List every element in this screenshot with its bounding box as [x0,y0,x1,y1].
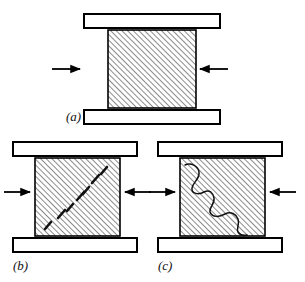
panel-label-b: (b) [13,258,28,273]
figure-canvas: (a) (b) (c) [0,0,305,282]
bottom-platen-c [158,238,282,252]
panel-label-a: (a) [66,109,81,124]
top-platen-c [158,142,282,156]
top-platen-a [84,14,220,28]
panel-label-c: (c) [158,258,172,273]
compression-failure-figure: (a) (b) (c) [0,0,305,282]
bottom-platen-a [84,110,220,124]
specimen-block-a [108,30,196,108]
specimen-block-c [180,158,265,236]
top-platen-b [13,142,137,156]
bottom-platen-b [13,238,137,252]
